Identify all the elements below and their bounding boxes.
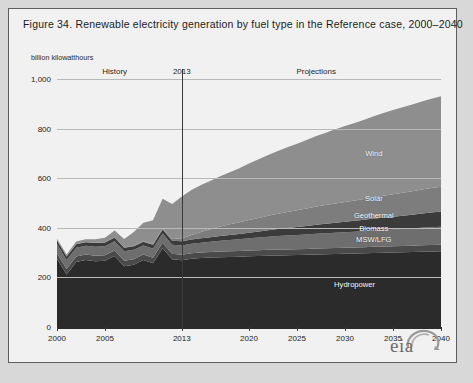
series-label-hydropower: Hydropower [334,279,375,288]
x-axis-tick-label: 2030 [336,334,354,343]
x-axis-tick-mark [182,327,183,331]
chart-plot-area: 02004006008001,0002000200520132020202520… [57,79,441,327]
history-projection-divider [182,79,183,327]
series-label-biomass: Biomass [359,224,388,233]
series-label-wind: Wind [365,149,382,158]
y-axis-tick-label: 0 [47,323,51,332]
x-axis-tick-mark [297,327,298,331]
x-axis-tick-label: 2020 [240,334,258,343]
gridline-y-800 [57,129,441,130]
y-axis-tick-label: 600 [38,174,51,183]
eia-logo-text: eia [390,335,414,357]
series-label-msw-lfg: MSW/LFG [356,234,391,243]
y-axis-tick-label: 200 [38,273,51,282]
x-axis-tick-mark [57,327,58,331]
annotation-projections: Projections [296,67,336,76]
y-axis-tick-label: 1,000 [31,75,51,84]
area-series-hydropower [57,248,441,327]
x-axis-tick-label: 2000 [48,334,66,343]
y-axis-tick-label: 400 [38,223,51,232]
gridline-y-1000 [57,79,441,80]
x-axis-tick-mark [345,327,346,331]
x-axis-tick-label: 2013 [173,334,191,343]
annotation-history: History [102,67,127,76]
series-label-solar: Solar [365,194,383,203]
figure-title: Figure 34. Renewable electricity generat… [23,18,463,30]
eia-logo: eia [388,326,442,358]
x-axis-tick-mark [249,327,250,331]
x-axis-tick-label: 2005 [96,334,114,343]
stacked-area-svg [57,79,441,327]
annotation-2013: 2013 [173,67,191,76]
x-axis-tick-mark [105,327,106,331]
x-axis-tick-label: 2025 [288,334,306,343]
series-label-geothermal: Geothermal [354,211,394,220]
figure-container: Figure 34. Renewable electricity generat… [8,8,457,363]
y-axis-tick-label: 800 [38,124,51,133]
gridline-y-200 [57,277,441,278]
y-axis-units-label: billion kilowatthours [31,53,93,62]
gridline-y-600 [57,178,441,179]
